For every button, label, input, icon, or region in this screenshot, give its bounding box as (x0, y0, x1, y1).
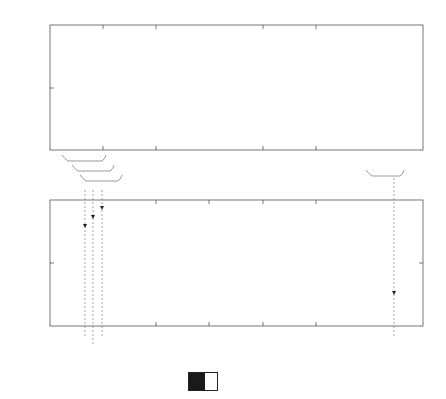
figure-title (205, 373, 217, 390)
bottom-plot-ticks (50, 200, 423, 326)
average-bracket-right (366, 170, 404, 176)
bottom-plot-frame (50, 200, 423, 326)
moving-average-figure (0, 0, 446, 399)
average-bracket-1 (62, 155, 106, 161)
top-plot-ticks (50, 25, 316, 150)
bottom-guides (83, 178, 396, 346)
top-plot-frame (50, 25, 423, 150)
bottom-plot (50, 178, 423, 346)
figure-number (189, 373, 205, 390)
average-bracket-3 (80, 175, 122, 181)
top-plot (50, 25, 423, 181)
average-bracket-2 (72, 165, 114, 171)
figure-caption (188, 372, 218, 391)
